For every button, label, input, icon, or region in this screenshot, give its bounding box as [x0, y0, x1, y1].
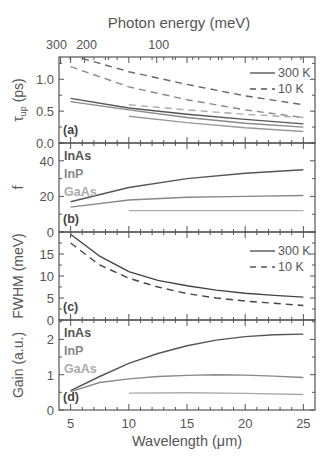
y-tick-label: 15 — [40, 247, 54, 262]
material-label: InAs — [64, 326, 91, 340]
y-tick-label: 0.0 — [36, 136, 54, 151]
y-axis-label: Gain (a.u.) — [10, 332, 26, 398]
y-axis-label: FWHM (meV) — [10, 233, 26, 319]
legend-label: 10 K — [278, 82, 304, 96]
series-line — [71, 196, 304, 208]
material-label: InAs — [64, 149, 91, 163]
x-tick-label: 10 — [122, 416, 136, 431]
top-tick-label: 200 — [76, 38, 97, 52]
panel-a: 0.00.51.0τup (ps)(a)300 K10 K — [10, 55, 315, 151]
top-tick-label: 300 — [46, 38, 67, 52]
panel-label: (b) — [63, 212, 79, 226]
y-tick-label: 1.0 — [36, 72, 54, 87]
y-axis-label: f — [10, 185, 26, 189]
y-tick-label: 0 — [47, 225, 54, 240]
y-axis-label: τup (ps) — [10, 78, 28, 122]
panel-c: 051015FWHM (meV)(c)300 K10 K — [10, 232, 315, 328]
series-line — [71, 98, 304, 124]
series-line — [71, 67, 304, 118]
legend-label: 300 K — [278, 244, 311, 258]
material-label: InP — [64, 167, 83, 181]
x-axis-title: Wavelength (μm) — [132, 433, 242, 449]
y-tick-label: 40 — [40, 154, 54, 169]
plot-frame — [59, 232, 315, 320]
x-tick-label: 20 — [238, 416, 252, 431]
y-tick-label: 0 — [47, 403, 54, 418]
panel-d: 012Gain (a.u.)(d)InAsInPGaAs — [10, 320, 315, 418]
chart: Photon energy (meV)3002001000.00.51.0τup… — [0, 0, 334, 466]
material-label: GaAs — [64, 362, 97, 376]
legend-label: 10 K — [278, 260, 304, 274]
material-label: InP — [64, 344, 83, 358]
plot-frame — [59, 143, 315, 232]
panel-b: 02040f(b)InAsInPGaAs — [10, 143, 315, 240]
panel-label: (d) — [63, 390, 79, 404]
x-tick-label: 25 — [296, 416, 310, 431]
y-tick-label: 0 — [47, 313, 54, 328]
x-tick-label: 5 — [67, 416, 74, 431]
top-axis-title: Photon energy (meV) — [108, 14, 251, 31]
x-tick-label: 15 — [180, 416, 194, 431]
top-tick-label: 100 — [148, 38, 169, 52]
y-tick-label: 20 — [40, 189, 54, 204]
panel-label: (a) — [63, 123, 78, 137]
legend-label: 300 K — [278, 66, 311, 80]
series-line — [71, 375, 304, 392]
y-tick-label: 1 — [47, 368, 54, 383]
y-tick-label: 5 — [47, 291, 54, 306]
series-line — [71, 234, 304, 297]
y-tick-label: 0.5 — [36, 104, 54, 119]
plot-frame — [59, 320, 315, 410]
material-label: GaAs — [64, 185, 97, 199]
y-tick-label: 2 — [47, 332, 54, 347]
y-tick-label: 10 — [40, 269, 54, 284]
series-line — [129, 393, 304, 395]
series-line — [71, 243, 304, 306]
panel-label: (c) — [63, 300, 78, 314]
series-line — [129, 116, 304, 131]
